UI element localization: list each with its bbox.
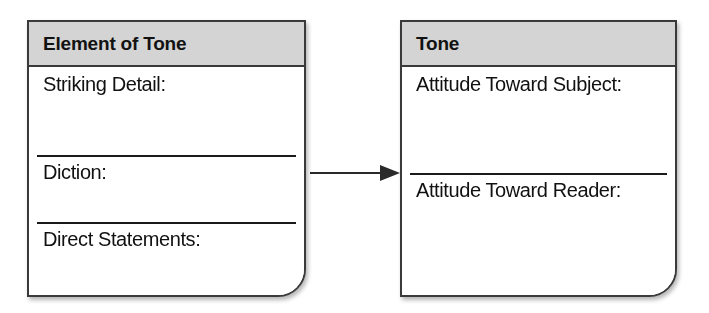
field-striking-detail-label: Striking Detail: (43, 73, 166, 95)
arrow-head (380, 165, 400, 181)
field-attitude-toward-reader[interactable]: Attitude Toward Reader: (402, 173, 675, 202)
box-element-of-tone-title: Element of Tone (43, 33, 186, 55)
field-diction[interactable]: Diction: (29, 155, 304, 184)
box-element-of-tone-body: Striking Detail: Diction: Direct Stateme… (29, 67, 304, 295)
field-attitude-toward-reader-label: Attitude Toward Reader: (416, 179, 621, 201)
box-tone-title: Tone (416, 33, 459, 55)
box-element-of-tone[interactable]: Element of Tone Striking Detail: Diction… (27, 20, 306, 297)
field-attitude-toward-subject-label: Attitude Toward Subject: (416, 73, 622, 95)
box-element-of-tone-header: Element of Tone (29, 22, 304, 67)
arrow-right-icon (306, 156, 402, 190)
field-direct-statements-label: Direct Statements: (43, 228, 200, 250)
box-tone[interactable]: Tone Attitude Toward Subject: Attitude T… (400, 20, 677, 297)
field-attitude-toward-subject[interactable]: Attitude Toward Subject: (402, 67, 675, 96)
box-tone-body: Attitude Toward Subject: Attitude Toward… (402, 67, 675, 295)
field-diction-label: Diction: (43, 161, 107, 183)
field-direct-statements[interactable]: Direct Statements: (29, 222, 304, 251)
box-tone-header: Tone (402, 22, 675, 67)
field-striking-detail[interactable]: Striking Detail: (29, 67, 304, 96)
diagram-canvas: Element of Tone Striking Detail: Diction… (0, 0, 709, 313)
